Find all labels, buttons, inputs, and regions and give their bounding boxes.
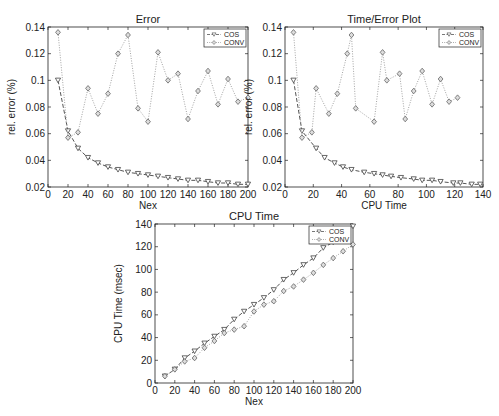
chart-title: Error — [136, 13, 161, 25]
x-tick-label: 0 — [45, 189, 51, 200]
x-tick-label: 140 — [475, 189, 492, 200]
y-tick-label: 40 — [141, 332, 153, 343]
x-tick-label: 120 — [265, 385, 282, 396]
chart-title: CPU Time — [229, 210, 279, 222]
x-tick-label: 20 — [62, 189, 74, 200]
x-tick-label: 0 — [152, 385, 158, 396]
y-tick-label: 120 — [135, 241, 152, 252]
error-chart: 0204060801001201401601802000.020.040.060… — [6, 13, 257, 211]
y-axis-label: CPU Time (msec) — [113, 264, 124, 343]
x-tick-label: 180 — [325, 385, 342, 396]
y-tick-label: 0.04 — [263, 155, 283, 166]
y-tick-label: 60 — [141, 309, 153, 320]
legend: COSCONV — [204, 29, 246, 47]
legend-entry: COS — [459, 31, 475, 38]
x-tick-label: 180 — [220, 189, 237, 200]
y-tick-label: 140 — [135, 219, 152, 230]
x-axis-label: CPU Time — [361, 200, 407, 211]
legend: COSCONV — [439, 29, 481, 47]
y-tick-label: 0.14 — [26, 22, 46, 33]
x-tick-label: 40 — [82, 189, 94, 200]
legend-entry: CONV — [329, 236, 350, 243]
y-tick-label: 100 — [135, 264, 152, 275]
x-tick-label: 60 — [364, 189, 376, 200]
y-tick-label: 0.08 — [26, 102, 46, 113]
y-tick-label: 0.12 — [26, 48, 46, 59]
y-tick-label: 0.06 — [26, 128, 46, 139]
x-tick-label: 100 — [418, 189, 435, 200]
legend-entry: COS — [224, 31, 240, 38]
y-tick-label: 20 — [141, 355, 153, 366]
y-tick-label: 0.1 — [268, 75, 282, 86]
legend-entry: COS — [329, 228, 345, 235]
figure-canvas: 0204060801001201401601802000.020.040.060… — [0, 0, 499, 416]
y-axis-label: rel. error (%) — [6, 79, 17, 135]
legend-entry: CONV — [224, 39, 245, 46]
legend: COSCONV — [309, 226, 351, 244]
cpu-time-chart: 0204060801001201401601802000204060801001… — [113, 210, 362, 407]
x-tick-label: 200 — [240, 189, 257, 200]
x-tick-label: 40 — [336, 189, 348, 200]
x-tick-label: 100 — [246, 385, 263, 396]
x-tick-label: 80 — [122, 189, 134, 200]
y-tick-label: 0.02 — [26, 182, 46, 193]
y-tick-label: 0.14 — [263, 22, 283, 33]
x-tick-label: 200 — [345, 385, 362, 396]
y-axis-label: rel. error (%) — [243, 79, 254, 135]
y-tick-label: 0.12 — [263, 48, 283, 59]
x-tick-label: 140 — [180, 189, 197, 200]
x-tick-label: 120 — [160, 189, 177, 200]
y-tick-label: 0 — [146, 378, 152, 389]
x-tick-label: 160 — [200, 189, 217, 200]
x-tick-label: 20 — [169, 385, 181, 396]
y-tick-label: 0.1 — [31, 75, 45, 86]
x-tick-label: 160 — [305, 385, 322, 396]
y-tick-label: 0.02 — [263, 182, 283, 193]
x-axis-label: Nex — [245, 396, 263, 407]
y-tick-label: 80 — [141, 287, 153, 298]
y-tick-label: 0.08 — [263, 102, 283, 113]
x-tick-label: 40 — [189, 385, 201, 396]
x-tick-label: 140 — [285, 385, 302, 396]
x-tick-label: 80 — [229, 385, 241, 396]
chart-title: Time/Error Plot — [347, 13, 421, 25]
x-tick-label: 80 — [393, 189, 405, 200]
x-tick-label: 0 — [282, 189, 288, 200]
y-tick-label: 0.04 — [26, 155, 46, 166]
x-tick-label: 100 — [140, 189, 157, 200]
time-error-chart: 0204060801001201400.020.040.060.080.10.1… — [243, 13, 492, 211]
x-axis-label: Nex — [139, 200, 157, 211]
legend-entry: CONV — [459, 39, 480, 46]
x-tick-label: 120 — [446, 189, 463, 200]
x-tick-label: 60 — [209, 385, 221, 396]
x-tick-label: 60 — [102, 189, 114, 200]
y-tick-label: 0.06 — [263, 128, 283, 139]
x-tick-label: 20 — [308, 189, 320, 200]
